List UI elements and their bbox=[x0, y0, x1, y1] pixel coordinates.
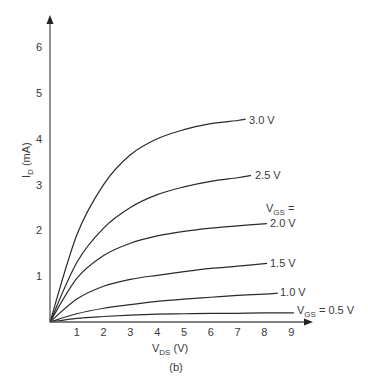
x-tick-label: 7 bbox=[235, 326, 241, 338]
curve-label-2-5v: 2.5 V bbox=[255, 169, 281, 181]
series-curve bbox=[50, 224, 267, 322]
curve-label-3-0v: 3.0 V bbox=[249, 114, 275, 126]
y-axis-arrow-icon bbox=[47, 15, 54, 24]
y-tick-label: 5 bbox=[36, 87, 42, 99]
x-axis-label: VDS (V) bbox=[152, 342, 188, 357]
x-tick-label: 1 bbox=[74, 326, 80, 338]
y-tick-label: 2 bbox=[36, 224, 42, 236]
curve-label-1-5v: 1.5 V bbox=[270, 257, 296, 269]
x-tick-label: 5 bbox=[181, 326, 187, 338]
y-tick-labels: 123456 bbox=[36, 41, 42, 282]
y-tick-label: 4 bbox=[36, 133, 42, 145]
x-axis-arrow-icon bbox=[304, 319, 313, 326]
curves bbox=[50, 119, 294, 322]
curve-label-0-5v: VGS = 0.5 V bbox=[297, 304, 355, 319]
id-vds-chart: 123456789 123456 ID (mA) VDS (V) (b) 3.0… bbox=[0, 0, 368, 379]
series-curve bbox=[50, 119, 246, 322]
series-curve bbox=[50, 175, 251, 322]
curve-label-1-0v: 1.0 V bbox=[280, 286, 306, 298]
y-axis-label: ID (mA) bbox=[20, 142, 35, 178]
x-tick-label: 3 bbox=[127, 326, 133, 338]
x-tick-labels: 123456789 bbox=[74, 326, 295, 338]
series-curve bbox=[50, 313, 294, 322]
curve-label-vgs-header: VGS = bbox=[266, 202, 294, 217]
x-tick-label: 6 bbox=[208, 326, 214, 338]
x-tick-label: 2 bbox=[101, 326, 107, 338]
y-tick-label: 1 bbox=[36, 270, 42, 282]
x-tick-label: 9 bbox=[288, 326, 294, 338]
x-tick-label: 4 bbox=[154, 326, 160, 338]
y-tick-label: 6 bbox=[36, 41, 42, 53]
curve-label-2-0v: 2.0 V bbox=[270, 217, 296, 229]
y-tick-label: 3 bbox=[36, 179, 42, 191]
figure-caption: (b) bbox=[169, 361, 182, 373]
x-tick-label: 8 bbox=[261, 326, 267, 338]
